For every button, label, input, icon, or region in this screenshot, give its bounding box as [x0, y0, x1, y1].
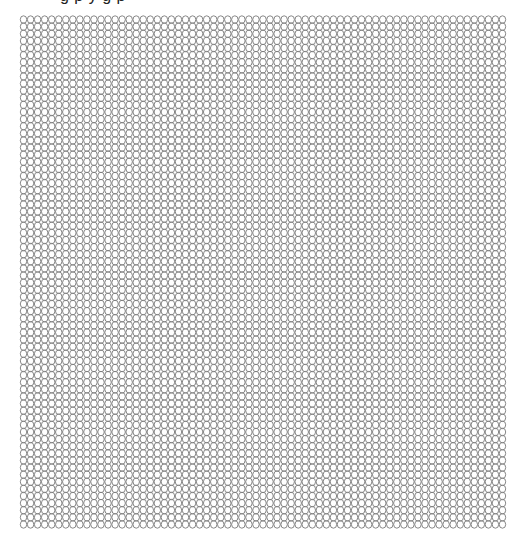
grid-ellipse	[34, 186, 40, 194]
grid-ellipse	[196, 215, 202, 223]
grid-ellipse	[70, 201, 76, 209]
grid-ellipse	[471, 51, 477, 59]
grid-ellipse	[112, 236, 118, 244]
grid-ellipse	[239, 499, 245, 507]
grid-ellipse	[492, 336, 498, 344]
grid-ellipse	[372, 222, 378, 230]
grid-ellipse	[429, 194, 435, 202]
grid-ellipse	[63, 37, 69, 45]
grid-ellipse	[210, 58, 216, 66]
grid-ellipse	[260, 243, 266, 251]
grid-ellipse	[27, 73, 33, 81]
grid-ellipse	[232, 73, 238, 81]
grid-ellipse	[415, 158, 421, 166]
grid-ellipse	[415, 80, 421, 88]
grid-ellipse	[239, 30, 245, 38]
grid-ellipse	[41, 44, 47, 52]
grid-ellipse	[372, 73, 378, 81]
grid-ellipse	[485, 400, 491, 408]
grid-ellipse	[98, 137, 104, 145]
grid-ellipse	[210, 165, 216, 173]
grid-ellipse	[140, 229, 146, 237]
grid-ellipse	[358, 457, 364, 465]
grid-ellipse	[337, 250, 343, 258]
grid-ellipse	[422, 485, 428, 493]
grid-ellipse	[161, 421, 167, 429]
grid-ellipse	[337, 421, 343, 429]
grid-ellipse	[267, 357, 273, 365]
grid-ellipse	[450, 243, 456, 251]
grid-ellipse	[161, 51, 167, 59]
grid-ellipse	[27, 307, 33, 315]
grid-ellipse	[27, 428, 33, 436]
grid-ellipse	[330, 428, 336, 436]
grid-ellipse	[358, 186, 364, 194]
grid-ellipse	[478, 51, 484, 59]
grid-ellipse	[436, 73, 442, 81]
grid-ellipse	[196, 73, 202, 81]
grid-ellipse	[189, 258, 195, 266]
grid-ellipse	[394, 130, 400, 138]
grid-ellipse	[351, 393, 357, 401]
grid-ellipse	[175, 108, 181, 116]
grid-ellipse	[112, 80, 118, 88]
grid-ellipse	[281, 343, 287, 351]
grid-ellipse	[126, 464, 132, 472]
grid-ellipse	[84, 108, 90, 116]
grid-ellipse	[27, 506, 33, 514]
grid-ellipse	[56, 37, 62, 45]
grid-ellipse	[450, 172, 456, 180]
grid-ellipse	[246, 87, 252, 95]
grid-ellipse	[492, 229, 498, 237]
grid-ellipse	[126, 378, 132, 386]
grid-ellipse	[387, 194, 393, 202]
grid-ellipse	[443, 357, 449, 365]
grid-ellipse	[464, 158, 470, 166]
grid-ellipse	[309, 435, 315, 443]
grid-ellipse	[429, 37, 435, 45]
grid-ellipse	[246, 51, 252, 59]
grid-ellipse	[105, 158, 111, 166]
grid-ellipse	[267, 499, 273, 507]
grid-ellipse	[288, 44, 294, 52]
grid-ellipse	[415, 400, 421, 408]
grid-ellipse	[450, 137, 456, 145]
grid-ellipse	[203, 314, 209, 322]
grid-ellipse	[98, 336, 104, 344]
grid-ellipse	[471, 37, 477, 45]
grid-ellipse	[408, 58, 414, 66]
grid-ellipse	[182, 307, 188, 315]
grid-ellipse	[56, 485, 62, 493]
grid-ellipse	[239, 137, 245, 145]
grid-ellipse	[41, 414, 47, 422]
grid-ellipse	[154, 521, 160, 529]
grid-ellipse	[225, 144, 231, 152]
grid-ellipse	[225, 521, 231, 529]
grid-ellipse	[429, 51, 435, 59]
grid-ellipse	[126, 236, 132, 244]
grid-ellipse	[126, 329, 132, 337]
grid-ellipse	[112, 186, 118, 194]
grid-ellipse	[77, 258, 83, 266]
grid-ellipse	[34, 215, 40, 223]
grid-ellipse	[260, 464, 266, 472]
grid-ellipse	[20, 101, 26, 109]
grid-ellipse	[492, 450, 498, 458]
grid-ellipse	[492, 435, 498, 443]
grid-ellipse	[309, 314, 315, 322]
grid-ellipse	[499, 236, 505, 244]
grid-ellipse	[337, 158, 343, 166]
grid-ellipse	[281, 137, 287, 145]
grid-ellipse	[189, 371, 195, 379]
grid-ellipse	[260, 236, 266, 244]
grid-ellipse	[408, 464, 414, 472]
grid-ellipse	[372, 471, 378, 479]
grid-ellipse	[56, 350, 62, 358]
grid-ellipse	[260, 80, 266, 88]
grid-ellipse	[422, 414, 428, 422]
grid-ellipse	[281, 222, 287, 230]
grid-ellipse	[218, 201, 224, 209]
grid-ellipse	[372, 265, 378, 273]
grid-ellipse	[140, 250, 146, 258]
grid-ellipse	[112, 485, 118, 493]
